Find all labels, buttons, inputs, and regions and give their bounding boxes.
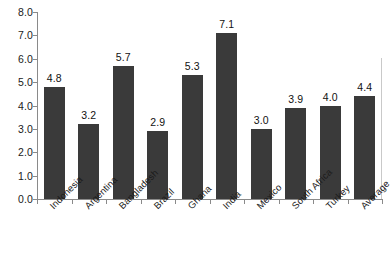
bar-value-label: 4.0 [310,92,350,103]
y-axis-tick-label: 3.0 [3,124,33,134]
figure-caption-fragment [14,259,374,267]
bar-value-label: 5.3 [172,61,212,72]
bar [216,33,237,199]
bar [354,96,375,199]
y-axis-tick-mark [33,35,37,36]
bar [44,87,65,199]
y-axis-tick-label: 0.0 [3,194,33,204]
bar-value-label: 2.9 [138,117,178,128]
bar-value-label: 3.0 [241,115,281,126]
y-axis-tick-mark [33,129,37,130]
y-axis-tick-label: 8.0 [3,7,33,17]
y-axis-tick-labels: 8.07.06.05.04.03.02.01.00.0 [0,0,33,267]
y-axis-tick-mark [33,176,37,177]
y-axis-tick-label: 7.0 [3,30,33,40]
y-axis-tick-label: 6.0 [3,54,33,64]
y-axis-tick-mark [33,106,37,107]
y-axis-tick-label: 4.0 [3,101,33,111]
bar [182,75,203,199]
y-axis-tick-mark [33,82,37,83]
bar-value-label: 4.8 [34,73,74,84]
bar [285,108,306,199]
y-axis-tick-label: 1.0 [3,171,33,181]
bar-value-label: 5.7 [103,52,143,63]
y-axis-line [37,12,38,200]
y-axis-tick-label: 2.0 [3,147,33,157]
x-axis-category-labels: IndonesiaArgentinaBangladeshBrazilGhanaI… [37,200,387,260]
bar-value-label: 3.2 [69,110,109,121]
bar-value-label: 4.4 [345,82,385,93]
y-axis-tick-mark [33,152,37,153]
y-axis-tick-label: 5.0 [3,77,33,87]
y-axis-tick-mark [33,59,37,60]
bar-value-label: 7.1 [207,19,247,30]
y-axis-tick-mark [33,12,37,13]
